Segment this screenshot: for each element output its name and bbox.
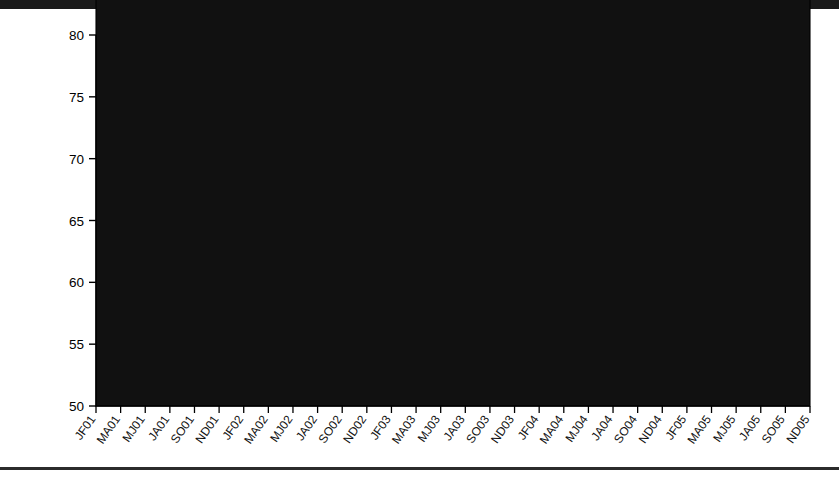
- stacked-area-chart: 50556065707580 JF01MA01MJ01JA01SO01ND01J…: [0, 0, 839, 479]
- x-tick-label-SO02: SO02: [316, 412, 345, 445]
- x-tick-label-ND02: ND02: [340, 412, 369, 445]
- x-tick-label-MJ01: MJ01: [119, 412, 147, 444]
- chart-page: Non-P&G pad brands Naturella Venezuela N…: [0, 0, 839, 479]
- y-tick-label-70: 70: [69, 152, 84, 167]
- x-tick-label-ND03: ND03: [488, 412, 517, 445]
- x-tick-label-MJ03: MJ03: [415, 412, 443, 444]
- x-tick-label-ND01: ND01: [192, 412, 221, 445]
- x-tick-label-ND05: ND05: [783, 412, 812, 445]
- x-tick-label-SO05: SO05: [759, 412, 788, 445]
- x-tick-label-MJ02: MJ02: [267, 412, 295, 444]
- x-tick-label-MA03: MA03: [389, 412, 419, 446]
- x-tick-label-SO04: SO04: [611, 412, 640, 445]
- x-tick-label-MA04: MA04: [537, 412, 567, 446]
- area-series-non-p-g-pad-brands: [96, 0, 810, 406]
- x-tick-group: JF01MA01MJ01JA01SO01ND01JF02MA02MJ02JA02…: [72, 406, 813, 446]
- y-tick-label-55: 55: [69, 337, 84, 352]
- y-tick-label-65: 65: [69, 214, 84, 229]
- x-tick-label-SO03: SO03: [463, 412, 492, 445]
- y-tick-label-50: 50: [69, 399, 84, 414]
- y-tick-label-60: 60: [69, 275, 84, 290]
- area-series-group: [96, 0, 810, 406]
- x-tick-label-MA05: MA05: [685, 412, 715, 446]
- x-tick-label-MA02: MA02: [241, 412, 271, 446]
- x-tick-label-MA01: MA01: [94, 412, 124, 446]
- y-tick-label-75: 75: [69, 90, 84, 105]
- y-tick-label-80: 80: [69, 28, 84, 43]
- x-tick-label-MJ05: MJ05: [710, 412, 738, 444]
- y-tick-group: 50556065707580: [69, 28, 96, 414]
- x-tick-label-MJ04: MJ04: [563, 412, 591, 444]
- x-tick-label-SO01: SO01: [168, 412, 197, 445]
- x-tick-label-ND04: ND04: [636, 412, 665, 445]
